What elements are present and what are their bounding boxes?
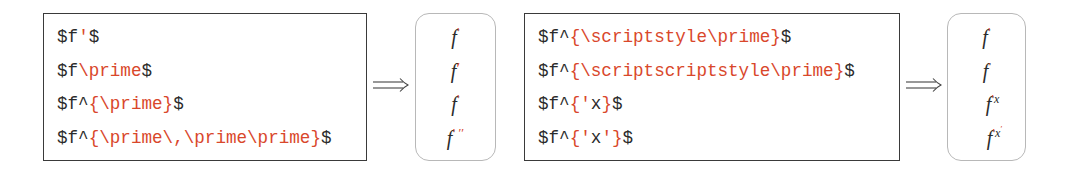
code-plain: $ bbox=[623, 128, 634, 148]
rendered-formula: f′ ′′ bbox=[416, 127, 495, 149]
code-plain: $f^ bbox=[538, 128, 570, 148]
code-plain: $ bbox=[141, 61, 152, 81]
code-plain: $ bbox=[89, 27, 100, 47]
code-plain: $f^ bbox=[57, 128, 89, 148]
rendered-formula: f′x′ bbox=[956, 127, 1033, 149]
implies-arrow-icon bbox=[373, 78, 409, 92]
formula-prime: ′ bbox=[1000, 124, 1002, 134]
code-plain: $ bbox=[781, 27, 792, 47]
code-line: $f'$ bbox=[57, 27, 99, 47]
code-plain: $f^ bbox=[538, 94, 570, 114]
formula-prime: ′ ′′ bbox=[452, 125, 464, 140]
latex-source-box-left: $f'$ $f\prime$ $f^{\prime}$ $f^{\prime\,… bbox=[43, 13, 367, 161]
rendered-output-box-right: f′ f′ f′x f′x′ bbox=[947, 13, 1026, 161]
code-highlight: '} bbox=[601, 128, 622, 148]
code-highlight: \prime bbox=[78, 61, 141, 81]
code-plain: $f^ bbox=[538, 61, 570, 81]
code-plain: $ bbox=[173, 94, 184, 114]
code-line: $f^{\prime}$ bbox=[57, 94, 184, 114]
code-plain: x bbox=[591, 94, 602, 114]
rendered-formula: f′ bbox=[948, 60, 1025, 82]
rendered-output-box-left: f′ f′ f′ f′ ′′ bbox=[415, 13, 496, 161]
code-plain: x bbox=[591, 128, 602, 148]
code-highlight: } bbox=[601, 94, 612, 114]
rendered-formula: f′ bbox=[416, 93, 495, 115]
code-plain: $f^ bbox=[538, 27, 570, 47]
rendered-formula: f′ bbox=[416, 60, 495, 82]
code-highlight: {' bbox=[570, 94, 591, 114]
rendered-formula: f′ bbox=[416, 26, 495, 48]
code-plain: $f^ bbox=[57, 94, 89, 114]
code-line: $f^{'x'}$ bbox=[538, 128, 633, 148]
formula-prime: ′ bbox=[988, 24, 991, 39]
code-highlight: ' bbox=[78, 27, 89, 47]
code-line: $f^{\prime\,\prime\prime}$ bbox=[57, 128, 332, 148]
latex-source-box-right: $f^{\scriptstyle\prime}$ $f^{\scriptscri… bbox=[524, 13, 900, 161]
code-plain: $ bbox=[612, 94, 623, 114]
code-plain: $f bbox=[57, 27, 78, 47]
code-plain: $ bbox=[321, 128, 332, 148]
code-highlight: {\scriptscriptstyle\prime} bbox=[570, 61, 845, 81]
code-line: $f\prime$ bbox=[57, 61, 152, 81]
implies-arrow-icon bbox=[906, 78, 942, 92]
rendered-formula: f′ bbox=[948, 26, 1025, 48]
code-plain: $ bbox=[844, 61, 855, 81]
code-line: $f^{'x}$ bbox=[538, 94, 623, 114]
code-highlight: {' bbox=[570, 128, 591, 148]
formula-prime: ′ bbox=[456, 59, 460, 78]
formula-sup-x: x bbox=[994, 92, 999, 106]
code-plain: $f bbox=[57, 61, 78, 81]
formula-prime: ′ bbox=[457, 24, 460, 39]
code-highlight: {\prime} bbox=[89, 94, 173, 114]
code-highlight: {\scriptstyle\prime} bbox=[570, 27, 781, 47]
code-line: $f^{\scriptscriptstyle\prime}$ bbox=[538, 61, 855, 81]
rendered-formula: f′x bbox=[954, 93, 1031, 115]
code-line: $f^{\scriptstyle\prime}$ bbox=[538, 27, 791, 47]
formula-prime: ′ bbox=[988, 61, 990, 72]
formula-prime: ′ bbox=[457, 91, 460, 106]
code-highlight: {\prime\,\prime\prime} bbox=[89, 128, 321, 148]
